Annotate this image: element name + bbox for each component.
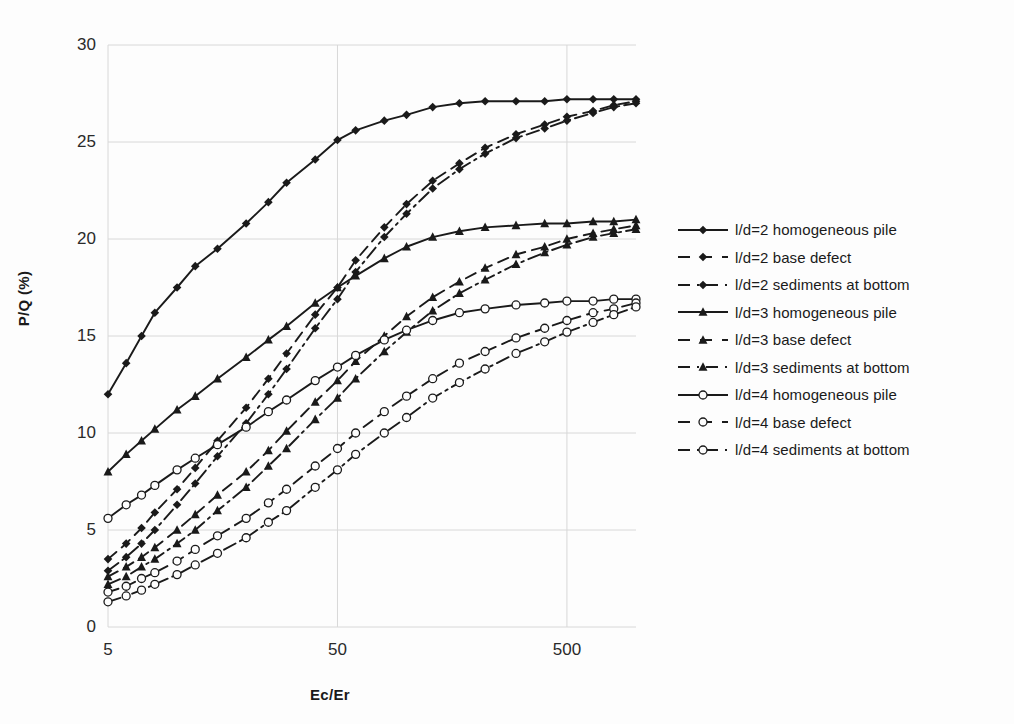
marker-filled-diamond — [699, 253, 708, 262]
marker-open-circle — [122, 592, 130, 600]
legend-item[interactable]: l/d=2 homogeneous pile — [676, 216, 1006, 244]
legend-key-filled-diamond — [676, 274, 730, 296]
marker-filled-diamond — [122, 359, 131, 368]
marker-open-circle — [455, 379, 463, 387]
marker-filled-triangle — [122, 572, 131, 581]
marker-open-circle — [455, 309, 463, 317]
marker-open-circle — [512, 301, 520, 309]
marker-open-circle — [242, 514, 250, 522]
legend-label: l/d=4 homogeneous pile — [735, 386, 897, 403]
marker-open-circle — [563, 328, 571, 336]
series-line — [108, 99, 636, 394]
marker-open-circle — [352, 429, 360, 437]
marker-open-circle — [333, 363, 341, 371]
marker-open-circle — [264, 518, 272, 526]
marker-filled-triangle — [402, 312, 411, 321]
marker-filled-triangle — [311, 298, 320, 307]
marker-filled-triangle — [173, 525, 182, 534]
legend-key-open-circle — [676, 384, 730, 406]
marker-filled-diamond — [173, 500, 182, 509]
marker-open-circle — [589, 309, 597, 317]
marker-filled-triangle — [455, 277, 464, 286]
marker-open-circle — [699, 418, 707, 426]
marker-open-circle — [242, 423, 250, 431]
marker-filled-triangle — [150, 554, 159, 563]
marker-open-circle — [138, 586, 146, 594]
legend-key-filled-triangle — [676, 301, 730, 323]
marker-open-circle — [242, 534, 250, 542]
marker-open-circle — [563, 297, 571, 305]
marker-open-circle — [699, 391, 707, 399]
marker-filled-diamond — [351, 126, 360, 135]
marker-open-circle — [632, 303, 640, 311]
marker-filled-triangle — [455, 289, 464, 298]
marker-open-circle — [311, 377, 319, 385]
marker-open-circle — [191, 545, 199, 553]
legend-item[interactable]: l/d=4 sediments at bottom — [676, 436, 1006, 464]
marker-open-circle — [403, 326, 411, 334]
series-line — [108, 307, 636, 602]
marker-open-circle — [151, 580, 159, 588]
marker-open-circle — [455, 359, 463, 367]
marker-filled-triangle — [351, 374, 360, 383]
legend-label: l/d=4 base defect — [735, 414, 851, 431]
legend-label: l/d=2 sediments at bottom — [735, 276, 910, 293]
marker-filled-triangle — [137, 552, 146, 561]
marker-open-circle — [104, 598, 112, 606]
legend-key-open-circle-dash — [676, 411, 730, 433]
marker-filled-triangle — [512, 259, 521, 268]
marker-open-circle — [283, 396, 291, 404]
legend-label: l/d=3 sediments at bottom — [735, 359, 910, 376]
marker-open-circle — [283, 485, 291, 493]
chart-legend: l/d=2 homogeneous pilel/d=2 base defectl… — [676, 216, 1006, 464]
legend-item[interactable]: l/d=3 homogeneous pile — [676, 299, 1006, 327]
marker-filled-triangle — [428, 306, 437, 315]
marker-filled-triangle — [104, 572, 113, 581]
legend-item[interactable]: l/d=3 sediments at bottom — [676, 354, 1006, 382]
legend-key-filled-diamond — [676, 219, 730, 241]
legend-key-filled-diamond — [676, 246, 730, 268]
marker-open-circle — [138, 575, 146, 583]
legend-label: l/d=3 base defect — [735, 331, 851, 348]
marker-open-circle — [610, 295, 618, 303]
marker-filled-diamond — [699, 225, 708, 234]
marker-filled-diamond — [428, 184, 437, 193]
legend-item[interactable]: l/d=4 homogeneous pile — [676, 381, 1006, 409]
legend-item[interactable]: l/d=3 base defect — [676, 326, 1006, 354]
marker-open-circle — [403, 392, 411, 400]
legend-item[interactable]: l/d=2 base defect — [676, 244, 1006, 272]
marker-open-circle — [610, 311, 618, 319]
marker-open-circle — [213, 441, 221, 449]
legend-item[interactable]: l/d=4 base defect — [676, 409, 1006, 437]
marker-open-circle — [589, 318, 597, 326]
marker-filled-triangle — [380, 254, 389, 263]
marker-open-circle — [173, 466, 181, 474]
marker-filled-diamond — [699, 280, 708, 289]
legend-label: l/d=2 base defect — [735, 249, 851, 266]
marker-filled-diamond — [563, 95, 572, 104]
series-line — [108, 101, 636, 559]
series-6 — [104, 295, 640, 522]
marker-open-circle — [191, 561, 199, 569]
marker-filled-triangle — [311, 415, 320, 424]
marker-filled-diamond — [402, 111, 411, 120]
marker-open-circle — [104, 514, 112, 522]
marker-open-circle — [283, 507, 291, 515]
marker-open-circle — [541, 324, 549, 332]
data-curves — [104, 95, 641, 606]
marker-open-circle — [264, 499, 272, 507]
marker-open-circle — [512, 334, 520, 342]
marker-filled-triangle — [333, 393, 342, 402]
marker-open-circle — [403, 413, 411, 421]
marker-open-circle — [481, 348, 489, 356]
series-line — [108, 229, 636, 584]
series-4 — [104, 221, 641, 581]
marker-filled-triangle — [242, 467, 251, 476]
marker-open-circle — [173, 557, 181, 565]
marker-open-circle — [191, 454, 199, 462]
legend-item[interactable]: l/d=2 sediments at bottom — [676, 271, 1006, 299]
marker-open-circle — [122, 582, 130, 590]
marker-open-circle — [512, 349, 520, 357]
legend-key-filled-triangle — [676, 356, 730, 378]
legend-key-open-circle — [676, 439, 730, 461]
